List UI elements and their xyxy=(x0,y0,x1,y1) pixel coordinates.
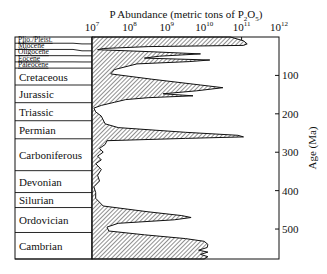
x-tick-label: 1012 xyxy=(270,20,289,33)
plot-frame xyxy=(92,37,279,259)
y-tick-label: 500 xyxy=(282,223,299,235)
x-tick-label: 107 xyxy=(85,20,100,33)
y-tick-label: 200 xyxy=(282,108,299,120)
period-connector xyxy=(55,49,92,50)
period-label: Ordovician xyxy=(19,214,69,226)
period-label: Silurian xyxy=(19,194,54,206)
x-tick-label: 108 xyxy=(122,20,137,33)
x-tick-label: 1010 xyxy=(195,20,214,33)
period-label: Carboniferous xyxy=(19,149,82,161)
geologic-period-column: Plio./Pleist.MioceneOligoceneEocenePaleo… xyxy=(15,35,92,259)
period-label: Triassic xyxy=(19,106,54,118)
period-label: Devonian xyxy=(19,176,62,188)
period-label: Cretaceous xyxy=(19,71,68,83)
y-tick-label: 100 xyxy=(282,69,299,81)
y-axis-label: Age (Ma) xyxy=(306,126,319,169)
abundance-area xyxy=(92,37,247,259)
period-label: Permian xyxy=(19,124,56,136)
y-tick-label: 400 xyxy=(282,185,299,197)
phosphorus-abundance-chart: P Abundance (metric tons of P2O5) 107108… xyxy=(0,0,327,274)
y-tick-label: 300 xyxy=(282,146,299,158)
period-label: Jurassic xyxy=(19,88,54,100)
x-tick-label: 1011 xyxy=(233,20,251,33)
period-label: Cambrian xyxy=(19,240,63,252)
abundance-area-series xyxy=(92,37,247,259)
period-connector xyxy=(55,43,92,44)
period-label: Paleocene xyxy=(18,60,49,69)
x-tick-label: 109 xyxy=(160,20,175,33)
